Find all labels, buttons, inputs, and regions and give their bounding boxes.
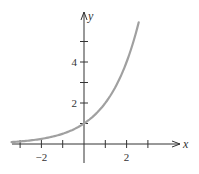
x-tick-label: −2 (36, 151, 48, 163)
y-tick-label: 2 (72, 97, 78, 109)
x-tick-label: 2 (124, 151, 130, 163)
tick-labels: −2224 (36, 56, 130, 163)
y-tick-label: 4 (72, 56, 78, 68)
function-curve (12, 22, 139, 142)
y-axis-label: y (87, 9, 94, 23)
exponential-function-chart: −2224 x y (0, 0, 199, 174)
x-axis-label: x (182, 137, 189, 151)
